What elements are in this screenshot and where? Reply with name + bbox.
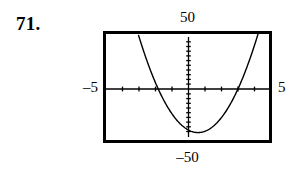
x-max-label: 5 (278, 80, 298, 95)
parabola-plot (106, 34, 269, 140)
y-min-label: –50 (103, 150, 272, 165)
parabola-curve (139, 34, 258, 132)
graph-figure: 71. (0, 0, 302, 178)
calculator-screen (103, 31, 272, 143)
x-min-label: –5 (62, 80, 98, 95)
problem-number: 71. (16, 14, 41, 33)
y-max-label: 50 (103, 10, 272, 25)
